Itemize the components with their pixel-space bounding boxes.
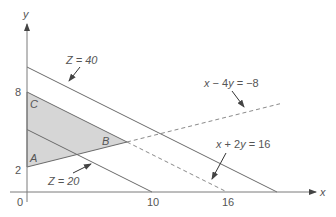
vertex-a-label: A [29,152,37,164]
vertex-c-label: C [30,98,38,110]
constraint-1-label: x − 4y = −8 [203,77,259,89]
z20-label: Z = 20 [47,175,80,187]
feasible-region [27,92,127,167]
x-tick-16: 16 [222,196,234,208]
constraint-2-label: x + 2y = 16 [215,138,270,150]
x-axis-label: x [319,186,326,198]
y-tick-2: 2 [15,164,21,176]
y-tick-8: 8 [15,86,21,98]
constraint-1-arrow-icon [232,91,244,107]
z40-arrow-icon [69,67,80,81]
y-axis-label: y [22,8,30,20]
vertex-b-label: B [102,135,109,147]
x-tick-10: 10 [147,196,159,208]
lp-diagram: x y 0 10 16 2 8 A B C Z = 40 Z = 20 x − … [0,0,336,217]
z20-arrow-icon [73,164,91,173]
constraint-line-1-extension [127,104,280,142]
z40-label: Z = 40 [65,54,98,66]
constraint-line-2-extension [127,142,227,192]
origin-label: 0 [17,196,23,208]
